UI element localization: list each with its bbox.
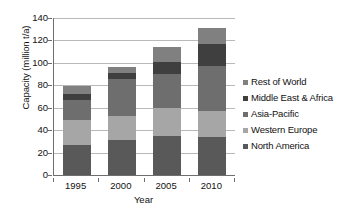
bar-segment[interactable]: [63, 100, 91, 120]
y-tick-mark: [48, 175, 52, 176]
legend-label: Rest of World: [251, 77, 306, 87]
chart-legend: Rest of WorldMiddle East & AfricaAsia-Pa…: [243, 74, 361, 154]
x-tick-mark: [53, 178, 54, 182]
legend-swatch-icon: [243, 144, 248, 149]
legend-item[interactable]: Rest of World: [243, 74, 361, 90]
bar-group[interactable]: [198, 28, 226, 175]
bar-segment[interactable]: [198, 137, 226, 175]
bar-segment[interactable]: [153, 74, 181, 108]
x-tick-label: 2000: [98, 180, 144, 191]
bar-segment[interactable]: [108, 140, 136, 175]
y-tick-label: 0: [22, 170, 48, 180]
x-tick-label: 1995: [53, 180, 99, 191]
y-axis-tick-labels: 020406080100120140: [18, 18, 48, 175]
legend-item[interactable]: North America: [243, 138, 361, 154]
legend-label: Asia-Pacific: [251, 109, 299, 119]
bar-group[interactable]: [63, 86, 91, 175]
y-tick-label: 60: [22, 103, 48, 113]
y-tick-mark: [48, 40, 52, 41]
bar-segment[interactable]: [153, 47, 181, 62]
bar-segment[interactable]: [198, 28, 226, 44]
bar-segment[interactable]: [63, 120, 91, 145]
y-tick-label: 80: [22, 80, 48, 90]
y-tick-label: 100: [22, 58, 48, 68]
y-tick-mark: [48, 63, 52, 64]
bar-segment[interactable]: [153, 62, 181, 74]
legend-swatch-icon: [243, 80, 248, 85]
legend-swatch-icon: [243, 128, 248, 133]
bar-segment[interactable]: [198, 111, 226, 137]
plot-area: [53, 18, 235, 176]
x-tick-mark: [234, 178, 235, 182]
bar-segment[interactable]: [198, 44, 226, 66]
bar-segment[interactable]: [108, 116, 136, 141]
legend-label: Western Europe: [251, 125, 317, 135]
x-axis-tick-labels: 1995200020052010: [53, 178, 234, 192]
x-tick-label: 2005: [143, 180, 189, 191]
legend-item[interactable]: Western Europe: [243, 122, 361, 138]
bar-segment[interactable]: [198, 66, 226, 111]
legend-swatch-icon: [243, 96, 248, 101]
bar-segment[interactable]: [153, 108, 181, 136]
gridline: [54, 18, 235, 19]
bar-segment[interactable]: [63, 145, 91, 175]
y-tick-mark: [48, 153, 52, 154]
bar-segment[interactable]: [63, 86, 91, 94]
legend-item[interactable]: Middle East & Africa: [243, 90, 361, 106]
bar-group[interactable]: [108, 67, 136, 175]
bar-group[interactable]: [153, 47, 181, 175]
stacked-bar-chart: Capacity (million t/a) 02040608010012014…: [0, 0, 361, 216]
y-tick-label: 140: [22, 13, 48, 23]
x-tick-label: 2010: [188, 180, 234, 191]
y-tick-mark: [48, 108, 52, 109]
legend-swatch-icon: [243, 112, 248, 117]
y-tick-label: 20: [22, 148, 48, 158]
legend-item[interactable]: Asia-Pacific: [243, 106, 361, 122]
legend-label: Middle East & Africa: [251, 93, 333, 103]
bar-segment[interactable]: [153, 136, 181, 175]
x-axis-title: Year: [53, 194, 234, 205]
y-tick-mark: [48, 85, 52, 86]
bar-segment[interactable]: [108, 79, 136, 116]
y-tick-mark: [48, 130, 52, 131]
y-tick-label: 40: [22, 125, 48, 135]
legend-label: North America: [251, 141, 309, 151]
y-tick-label: 120: [22, 35, 48, 45]
y-tick-mark: [48, 18, 52, 19]
